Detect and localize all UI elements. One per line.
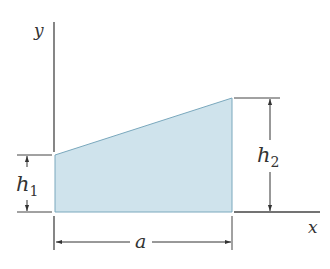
trapezoid-diagram: y x h1 h2 a bbox=[0, 0, 330, 269]
trapezoid-shape bbox=[55, 98, 232, 212]
x-axis-label: x bbox=[308, 217, 318, 237]
y-axis-label: y bbox=[33, 20, 44, 40]
h2-label: h2 bbox=[257, 143, 279, 170]
h1-label: h1 bbox=[16, 172, 38, 199]
a-label: a bbox=[135, 230, 146, 252]
